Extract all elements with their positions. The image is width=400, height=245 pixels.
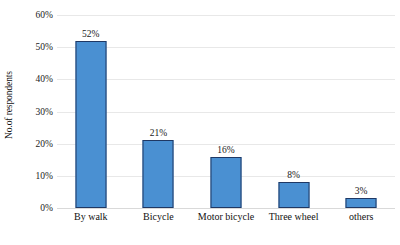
bar-three-wheel[interactable]: 8% <box>278 182 309 208</box>
x-axis-tick-label: Three wheel <box>269 211 319 222</box>
y-axis-tick-label: 50% <box>7 42 53 52</box>
bar-rect[interactable] <box>143 140 174 208</box>
y-axis-tick-label: 30% <box>7 107 53 117</box>
y-axis-tick-label: 40% <box>7 74 53 84</box>
y-axis-tick-label: 0% <box>7 203 53 213</box>
bar-rect[interactable] <box>278 182 309 208</box>
bar-chart: No.of respondents 0%10%20%30%40%50%60% 5… <box>0 0 400 245</box>
y-axis-tick-labels: 0%10%20%30%40%50%60% <box>3 15 53 208</box>
bar-value-label: 8% <box>287 170 300 180</box>
bar-value-label: 3% <box>355 186 368 196</box>
bar-rect[interactable] <box>211 157 242 208</box>
gridline <box>57 112 395 113</box>
bar-bicycle[interactable]: 21% <box>143 140 174 208</box>
gridline <box>57 47 395 48</box>
bar-value-label: 21% <box>150 128 167 138</box>
x-axis-tick-label: By walk <box>74 211 108 222</box>
bar-value-label: 52% <box>82 29 99 39</box>
plot-area: 52%21%16%8%3% <box>57 15 395 208</box>
bar-rect[interactable] <box>75 41 106 208</box>
bar-by-walk[interactable]: 52% <box>75 41 106 208</box>
bar-others[interactable]: 3% <box>346 198 377 208</box>
bar-rect[interactable] <box>346 198 377 208</box>
bar-value-label: 16% <box>217 145 234 155</box>
gridline <box>57 79 395 80</box>
x-axis-tick-label: Bicycle <box>143 211 174 222</box>
y-axis-tick-label: 10% <box>7 171 53 181</box>
y-axis-tick-label: 20% <box>7 139 53 149</box>
bar-motor-bicycle[interactable]: 16% <box>211 157 242 208</box>
x-axis-tick-labels: By walkBicycleMotor bicycleThree wheelot… <box>57 211 395 233</box>
x-axis-tick-label: Motor bicycle <box>198 211 254 222</box>
gridline <box>57 15 395 16</box>
gridline <box>57 208 395 209</box>
x-axis-tick-label: others <box>349 211 373 222</box>
y-axis-tick-label: 60% <box>7 10 53 20</box>
